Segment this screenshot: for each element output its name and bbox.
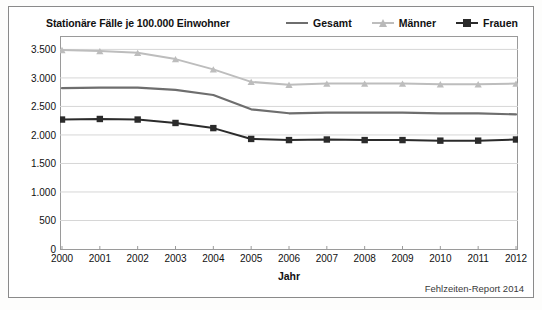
x-tick-label: 2004 xyxy=(202,253,224,264)
x-tick-label: 2010 xyxy=(429,253,451,264)
x-axis: 2000200120022003200420052006200720082009… xyxy=(60,253,518,269)
x-tick-label: 2007 xyxy=(316,253,338,264)
y-tick-label: 2.500 xyxy=(20,101,56,112)
y-tick-label: 500 xyxy=(20,215,56,226)
legend-label-frauen: Frauen xyxy=(483,17,518,29)
y-tick-label: 3.000 xyxy=(20,72,56,83)
x-tick-label: 2003 xyxy=(164,253,186,264)
legend-item-gesamt[interactable]: Gesamt xyxy=(286,17,352,29)
chart-figure: Stationäre Fälle je 100.000 Einwohner Ge… xyxy=(0,0,542,310)
square-marker-icon xyxy=(463,19,471,27)
y-tick-label: 3.500 xyxy=(20,44,56,55)
x-tick-label: 2001 xyxy=(89,253,111,264)
x-tick-label: 2008 xyxy=(354,253,376,264)
y-tick-label: 2.000 xyxy=(20,129,56,140)
x-tick-label: 2000 xyxy=(51,253,73,264)
legend-swatch-maenner xyxy=(372,18,394,29)
y-axis: 05001.0001.5002.0002.5003.0003.500 xyxy=(14,36,56,250)
triangle-marker-icon xyxy=(379,19,387,27)
legend-item-frauen[interactable]: Frauen xyxy=(456,17,518,29)
x-tick-label: 2009 xyxy=(391,253,413,264)
plot-canvas xyxy=(60,36,518,250)
x-tick-label: 2011 xyxy=(467,253,489,264)
legend-swatch-frauen xyxy=(456,18,478,29)
y-tick-label: 1.500 xyxy=(20,158,56,169)
x-tick-label: 2012 xyxy=(505,253,527,264)
legend-swatch-gesamt xyxy=(286,18,308,29)
x-tick-label: 2002 xyxy=(127,253,149,264)
chart-title: Stationäre Fälle je 100.000 Einwohner xyxy=(46,17,230,29)
legend-label-gesamt: Gesamt xyxy=(313,17,352,29)
x-axis-title: Jahr xyxy=(60,270,518,282)
legend-item-maenner[interactable]: Männer xyxy=(372,17,436,29)
x-tick-label: 2005 xyxy=(240,253,262,264)
chart-header: Stationäre Fälle je 100.000 Einwohner Ge… xyxy=(46,14,526,32)
y-tick-label: 1.000 xyxy=(20,186,56,197)
legend-label-maenner: Männer xyxy=(399,17,436,29)
chart-legend: Gesamt Männer Frauen xyxy=(286,17,526,29)
source-note: Fehlzeiten-Report 2014 xyxy=(425,283,524,294)
x-tick-label: 2006 xyxy=(278,253,300,264)
